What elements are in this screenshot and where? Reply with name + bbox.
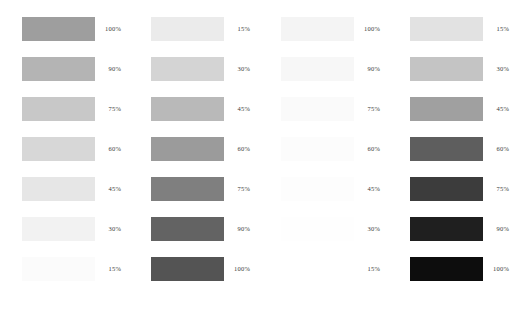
swatch-row: 45% xyxy=(129,97,258,121)
swatch-percentage-label: 90% xyxy=(95,57,129,81)
swatch-percentage-label: 45% xyxy=(224,97,258,121)
color-swatch xyxy=(151,257,224,281)
swatch-percentage-label: 75% xyxy=(354,97,388,121)
color-swatch xyxy=(410,17,483,41)
color-swatch xyxy=(281,57,354,81)
swatch-row: 100% xyxy=(129,257,258,281)
color-swatch xyxy=(151,217,224,241)
swatch-percentage-label: 60% xyxy=(95,137,129,161)
tint-chart: 100%90%75%60%45%30%15%15%30%45%60%75%90%… xyxy=(0,0,518,313)
swatch-percentage-label: 15% xyxy=(95,257,129,281)
swatch-row: 60% xyxy=(0,137,129,161)
swatch-column-1: 100%90%75%60%45%30%15% xyxy=(0,0,129,313)
color-swatch xyxy=(22,17,95,41)
swatch-row: 100% xyxy=(259,17,388,41)
swatch-row: 60% xyxy=(388,137,517,161)
color-swatch xyxy=(410,177,483,201)
color-swatch xyxy=(22,177,95,201)
swatch-percentage-label: 100% xyxy=(224,257,258,281)
swatch-row: 90% xyxy=(0,57,129,81)
swatch-row: 15% xyxy=(129,17,258,41)
swatch-percentage-label: 30% xyxy=(95,217,129,241)
swatch-percentage-label: 100% xyxy=(483,257,517,281)
swatch-percentage-label: 45% xyxy=(483,97,517,121)
swatch-column-3: 100%90%75%60%45%30%15% xyxy=(259,0,388,313)
swatch-row: 30% xyxy=(259,217,388,241)
swatch-percentage-label: 15% xyxy=(224,17,258,41)
color-swatch xyxy=(22,57,95,81)
swatch-row: 45% xyxy=(0,177,129,201)
swatch-row: 75% xyxy=(0,97,129,121)
swatch-row: 15% xyxy=(259,257,388,281)
swatch-row: 45% xyxy=(259,177,388,201)
swatch-percentage-label: 30% xyxy=(224,57,258,81)
swatch-percentage-label: 100% xyxy=(354,17,388,41)
swatch-row: 100% xyxy=(388,257,517,281)
swatch-column-2: 15%30%45%60%75%90%100% xyxy=(129,0,258,313)
color-swatch xyxy=(410,137,483,161)
swatch-row: 90% xyxy=(259,57,388,81)
color-swatch xyxy=(151,17,224,41)
swatch-row: 60% xyxy=(129,137,258,161)
color-swatch xyxy=(151,57,224,81)
swatch-percentage-label: 30% xyxy=(483,57,517,81)
swatch-row: 60% xyxy=(259,137,388,161)
color-swatch xyxy=(22,97,95,121)
swatch-percentage-label: 60% xyxy=(483,137,517,161)
swatch-row: 90% xyxy=(388,217,517,241)
swatch-row: 30% xyxy=(388,57,517,81)
swatch-percentage-label: 90% xyxy=(224,217,258,241)
swatch-row: 75% xyxy=(388,177,517,201)
swatch-row: 100% xyxy=(0,17,129,41)
color-swatch xyxy=(151,97,224,121)
swatch-row: 15% xyxy=(388,17,517,41)
color-swatch xyxy=(281,217,354,241)
swatch-percentage-label: 75% xyxy=(483,177,517,201)
color-swatch xyxy=(281,97,354,121)
color-swatch xyxy=(22,137,95,161)
swatch-column-4: 15%30%45%60%75%90%100% xyxy=(388,0,517,313)
swatch-percentage-label: 75% xyxy=(224,177,258,201)
color-swatch xyxy=(410,257,483,281)
color-swatch xyxy=(151,177,224,201)
swatch-percentage-label: 60% xyxy=(354,137,388,161)
color-swatch xyxy=(281,17,354,41)
swatch-percentage-label: 75% xyxy=(95,97,129,121)
swatch-row: 75% xyxy=(259,97,388,121)
swatch-percentage-label: 15% xyxy=(354,257,388,281)
color-swatch xyxy=(22,257,95,281)
swatch-row: 90% xyxy=(129,217,258,241)
color-swatch xyxy=(281,177,354,201)
color-swatch xyxy=(410,217,483,241)
swatch-percentage-label: 30% xyxy=(354,217,388,241)
swatch-row: 30% xyxy=(0,217,129,241)
swatch-percentage-label: 60% xyxy=(224,137,258,161)
swatch-row: 75% xyxy=(129,177,258,201)
swatch-row: 45% xyxy=(388,97,517,121)
swatch-percentage-label: 90% xyxy=(354,57,388,81)
swatch-row: 15% xyxy=(0,257,129,281)
color-swatch xyxy=(281,257,354,281)
swatch-percentage-label: 90% xyxy=(483,217,517,241)
color-swatch xyxy=(410,97,483,121)
color-swatch xyxy=(151,137,224,161)
color-swatch xyxy=(22,217,95,241)
swatch-percentage-label: 45% xyxy=(95,177,129,201)
swatch-row: 30% xyxy=(129,57,258,81)
swatch-percentage-label: 45% xyxy=(354,177,388,201)
swatch-percentage-label: 15% xyxy=(483,17,517,41)
color-swatch xyxy=(410,57,483,81)
color-swatch xyxy=(281,137,354,161)
swatch-percentage-label: 100% xyxy=(95,17,129,41)
